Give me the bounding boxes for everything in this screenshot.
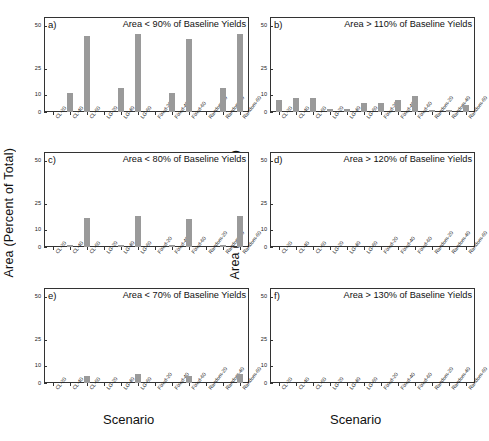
x-tick-label: LG-60 (365, 376, 379, 391)
y-tick-label: 0 (251, 109, 267, 115)
panel-label: d) (274, 154, 282, 165)
x-tick-label: LG-20 (105, 240, 119, 255)
y-tick-label: 25 (251, 336, 267, 342)
bar (118, 88, 124, 112)
y-tick-label: 0 (251, 244, 267, 250)
x-tick-label: Fixed-20 (382, 371, 399, 391)
x-tick-label: CL-40 (297, 105, 310, 120)
plot-area: d)Area > 120% of Baseline Yields0102550C… (270, 152, 475, 247)
panel-title: Area < 90% of Baseline Yields (123, 19, 246, 29)
y-tick-label: 25 (251, 65, 267, 71)
panel-b: b)Area > 110% of Baseline Yields0102550C… (270, 17, 475, 112)
y-tick-label: 10 (25, 362, 41, 368)
panel-label: b) (274, 19, 282, 30)
y-tick-label: 10 (251, 226, 267, 232)
y-tick-mark (44, 247, 47, 248)
y-tick-mark (44, 26, 47, 27)
x-tick-label: CL-40 (71, 240, 84, 255)
y-tick-mark (44, 204, 47, 205)
x-tick-label: LG-40 (122, 105, 136, 120)
y-tick-mark (44, 340, 47, 341)
x-axis-title-column1: Scenario (103, 412, 154, 427)
panel-title: Area > 120% of Baseline Yields (344, 154, 472, 164)
y-tick-mark (44, 69, 47, 70)
x-tick-label: CL-20 (54, 240, 67, 255)
bar (135, 34, 141, 112)
panel-label: e) (48, 290, 56, 301)
x-tick-label: CL-60 (314, 240, 327, 255)
bar (237, 216, 243, 247)
x-tick-label: CL-40 (297, 376, 310, 391)
plot-area: e)Area < 70% of Baseline Yields0102550CL… (44, 288, 249, 383)
y-tick-mark (270, 26, 273, 27)
y-tick-mark (270, 297, 273, 298)
x-tick-label: LG-60 (139, 376, 153, 391)
x-tick-label: CL-60 (314, 376, 327, 391)
y-tick-label: 50 (251, 22, 267, 28)
y-tick-label: 0 (25, 380, 41, 386)
bar (310, 98, 316, 112)
x-tick-label: LG-20 (331, 376, 345, 391)
y-tick-label: 10 (251, 91, 267, 97)
y-tick-label: 25 (25, 336, 41, 342)
y-tick-label: 25 (25, 65, 41, 71)
y-tick-label: 50 (25, 157, 41, 163)
bar (135, 216, 141, 247)
bar (237, 374, 243, 383)
x-tick-label: CL-60 (88, 376, 101, 391)
x-tick-label: Fixed-60 (416, 371, 433, 391)
bar (276, 100, 282, 112)
y-tick-mark (44, 95, 47, 96)
panel-label: a) (48, 19, 56, 30)
panel-f: f)Area > 130% of Baseline Yields0102550C… (270, 288, 475, 383)
x-tick-label: LG-60 (139, 240, 153, 255)
y-tick-mark (44, 161, 47, 162)
x-tick-label: CL-20 (54, 376, 67, 391)
y-tick-mark (44, 230, 47, 231)
y-tick-mark (270, 230, 273, 231)
bar (412, 96, 418, 112)
y-tick-mark (270, 95, 273, 96)
bar (361, 103, 367, 112)
x-tick-label: LG-60 (365, 240, 379, 255)
bar (237, 34, 243, 112)
y-tick-mark (44, 366, 47, 367)
x-tick-label: Fixed-20 (156, 371, 173, 391)
plot-area: a)Area < 90% of Baseline Yields0102550CL… (44, 17, 249, 112)
y-tick-mark (270, 383, 273, 384)
x-tick-label: Fixed-20 (382, 235, 399, 255)
panel-d: d)Area > 120% of Baseline Yields0102550C… (270, 152, 475, 247)
panel-label: c) (48, 154, 56, 165)
bar (463, 105, 469, 112)
y-tick-mark (44, 383, 47, 384)
bar (186, 219, 192, 247)
x-tick-label: CL-60 (88, 240, 101, 255)
x-tick-label: CL-60 (314, 105, 327, 120)
y-tick-label: 0 (25, 109, 41, 115)
x-tick-label: LG-60 (365, 105, 379, 120)
y-tick-label: 50 (251, 293, 267, 299)
x-tick-label: CL-40 (71, 376, 84, 391)
x-tick-label: CL-20 (280, 376, 293, 391)
x-tick-label: LG-40 (348, 105, 362, 120)
y-tick-label: 0 (251, 380, 267, 386)
x-axis-title-column2: Scenario (330, 412, 381, 427)
x-tick-label: LG-20 (331, 240, 345, 255)
panel-title: Area > 110% of Baseline Yields (344, 19, 472, 29)
bar (84, 376, 90, 383)
y-tick-label: 25 (25, 200, 41, 206)
x-tick-label: Fixed-60 (190, 100, 207, 120)
y-tick-mark (270, 112, 273, 113)
panel-e: e)Area < 70% of Baseline Yields0102550CL… (44, 288, 249, 383)
bar (293, 98, 299, 112)
bar (395, 100, 401, 112)
bar (67, 93, 73, 112)
y-tick-label: 0 (25, 244, 41, 250)
x-tick-label: LG-20 (105, 105, 119, 120)
y-tick-label: 50 (251, 157, 267, 163)
bar (169, 93, 175, 112)
x-tick-label: LG-60 (139, 105, 153, 120)
y-tick-mark (270, 340, 273, 341)
y-tick-mark (270, 161, 273, 162)
bar (186, 376, 192, 383)
